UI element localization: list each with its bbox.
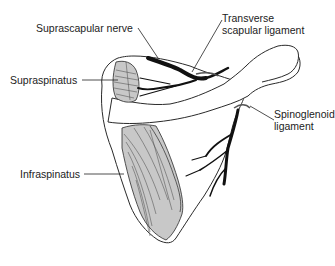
leader-transverse-ligament [192, 20, 222, 72]
leader-spinoglenoid [250, 106, 274, 120]
label-transverse-line1: Transverse [222, 12, 274, 24]
label-suprascapular-nerve: Suprascapular nerve [36, 22, 133, 34]
label-infraspinatus: Infraspinatus [20, 168, 80, 180]
label-supraspinatus: Supraspinatus [10, 74, 77, 86]
label-spinoglenoid-line1: Spinoglenoid [274, 108, 335, 120]
label-spinoglenoid-line2: ligament [274, 120, 314, 132]
leader-suprascapular-nerve [138, 28, 158, 58]
label-transverse-line2: scapular ligament [222, 24, 304, 36]
